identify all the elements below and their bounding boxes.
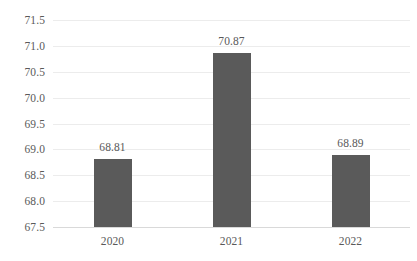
- y-tick-label: 68.0: [24, 195, 45, 207]
- y-tick-label: 70.5: [24, 66, 45, 78]
- y-tick-label: 68.5: [24, 169, 45, 181]
- gridline: [53, 227, 410, 228]
- bar-group: 68.89: [291, 20, 410, 227]
- y-tick-label: 71.5: [24, 14, 45, 26]
- bar-value-label: 68.89: [337, 137, 363, 149]
- y-axis: 71.571.070.570.069.569.068.568.067.5: [0, 0, 53, 261]
- bar-chart: 71.571.070.570.069.569.068.568.067.5 68.…: [0, 0, 417, 261]
- y-tick-label: 70.0: [24, 92, 45, 104]
- bar[interactable]: [213, 53, 251, 227]
- x-tick-label: 2020: [101, 235, 124, 247]
- y-tick-label: 71.0: [24, 40, 45, 52]
- bar-group: 70.87: [172, 20, 291, 227]
- x-tick-label: 2022: [339, 235, 362, 247]
- bar-value-label: 70.87: [218, 35, 244, 47]
- bar[interactable]: [94, 159, 132, 227]
- bar-value-label: 68.81: [99, 141, 125, 153]
- plot-area: 68.8170.8768.89: [53, 20, 410, 227]
- y-tick-label: 69.0: [24, 143, 45, 155]
- x-tick-label: 2021: [220, 235, 243, 247]
- bar[interactable]: [332, 155, 370, 227]
- bar-group: 68.81: [53, 20, 172, 227]
- x-axis: 202020212022: [53, 231, 410, 261]
- y-tick-label: 69.5: [24, 118, 45, 130]
- y-tick-label: 67.5: [24, 221, 45, 233]
